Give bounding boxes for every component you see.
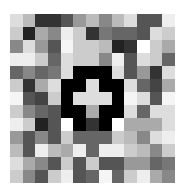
mosaic-cell [23, 118, 36, 131]
mosaic-cell [73, 27, 86, 40]
mosaic-cell [162, 144, 175, 157]
mosaic-cell [48, 53, 61, 66]
mosaic-cell [124, 105, 137, 118]
mosaic-cell [73, 66, 86, 79]
mosaic-cell [99, 105, 112, 118]
mosaic-cell [86, 66, 99, 79]
mosaic-cell [23, 105, 36, 118]
mosaic-cell [162, 79, 175, 92]
mosaic-cell [124, 53, 137, 66]
mosaic-cell [137, 40, 150, 53]
mosaic-cell [10, 79, 23, 92]
mosaic-cell [137, 144, 150, 157]
mosaic-cell [61, 27, 74, 40]
mosaic-cell [162, 92, 175, 105]
mosaic-cell [35, 131, 48, 144]
mosaic-cell [10, 170, 23, 183]
mosaic-cell [124, 157, 137, 170]
mosaic-cell [61, 53, 74, 66]
mosaic-cell [35, 40, 48, 53]
mosaic-cell [35, 79, 48, 92]
mosaic-cell [124, 118, 137, 131]
mosaic-cell [124, 131, 137, 144]
mosaic-cell [137, 170, 150, 183]
mosaic-cell [99, 79, 112, 92]
mosaic-cell [86, 92, 99, 105]
mosaic-cell [73, 53, 86, 66]
mosaic-cell [137, 131, 150, 144]
mosaic-cell [150, 144, 163, 157]
mosaic-cell [23, 14, 36, 27]
mosaic-cell [73, 170, 86, 183]
mosaic-cell [35, 53, 48, 66]
mosaic-cell [150, 105, 163, 118]
mosaic-cell [48, 92, 61, 105]
mosaic-cell [86, 170, 99, 183]
mosaic-cell [73, 79, 86, 92]
mosaic-cell [124, 66, 137, 79]
mosaic-cell [48, 144, 61, 157]
mosaic-cell [23, 27, 36, 40]
mosaic-cell [23, 170, 36, 183]
mosaic-cell [124, 144, 137, 157]
mosaic-cell [150, 40, 163, 53]
mosaic-cell [73, 144, 86, 157]
mosaic-cell [162, 105, 175, 118]
mosaic-cell [150, 79, 163, 92]
mosaic-cell [61, 40, 74, 53]
mosaic-cell [162, 131, 175, 144]
mosaic-cell [35, 105, 48, 118]
mosaic-cell [61, 144, 74, 157]
mosaic-cell [162, 40, 175, 53]
mosaic-cell [137, 27, 150, 40]
mosaic-cell [86, 105, 99, 118]
mosaic-cell [35, 157, 48, 170]
mosaic-cell [48, 66, 61, 79]
mosaic-cell [10, 14, 23, 27]
mosaic-cell [112, 40, 125, 53]
mosaic-cell [10, 157, 23, 170]
mosaic-cell [162, 66, 175, 79]
mosaic-cell [61, 66, 74, 79]
mosaic-cell [99, 92, 112, 105]
mosaic-cell [112, 131, 125, 144]
mosaic-cell [112, 157, 125, 170]
mosaic-cell [48, 79, 61, 92]
mosaic-cell [10, 118, 23, 131]
mosaic-cell [61, 157, 74, 170]
mosaic-cell [99, 14, 112, 27]
mosaic-cell [23, 144, 36, 157]
mosaic-cell [162, 14, 175, 27]
mosaic-cell [112, 105, 125, 118]
mosaic-cell [124, 40, 137, 53]
mosaic-cell [61, 92, 74, 105]
mosaic-cell [23, 79, 36, 92]
mosaic-cell [23, 40, 36, 53]
mosaic-cell [86, 118, 99, 131]
mosaic-cell [112, 92, 125, 105]
mosaic-cell [86, 27, 99, 40]
mosaic-cell [35, 144, 48, 157]
mosaic-cell [48, 105, 61, 118]
mosaic-cell [86, 144, 99, 157]
mosaic-cell [124, 79, 137, 92]
mosaic-cell [61, 79, 74, 92]
mosaic-cell [150, 14, 163, 27]
mosaic-cell [48, 131, 61, 144]
mosaic-cell [162, 157, 175, 170]
mosaic-cell [10, 53, 23, 66]
mosaic-cell [35, 66, 48, 79]
mosaic-cell [99, 53, 112, 66]
mosaic-cell [23, 131, 36, 144]
mosaic-cell [35, 14, 48, 27]
mosaic-cell [86, 14, 99, 27]
mosaic-cell [99, 170, 112, 183]
mosaic-cell [35, 92, 48, 105]
mosaic-cell [150, 118, 163, 131]
mosaic-cell [61, 105, 74, 118]
mosaic-cell [137, 66, 150, 79]
mosaic-cell [112, 27, 125, 40]
mosaic-cell [137, 53, 150, 66]
mosaic-cell [150, 92, 163, 105]
mosaic-cell [35, 118, 48, 131]
